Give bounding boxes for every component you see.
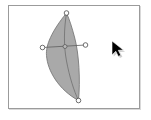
drawing-canvas-surface[interactable] (9, 6, 139, 108)
app-root: Vector Editor Canvas (0, 0, 151, 120)
leaf-petal-shape[interactable] (46, 13, 79, 101)
node-top[interactable] (64, 11, 69, 16)
node-left[interactable] (40, 45, 45, 50)
node-right[interactable] (83, 43, 88, 48)
node-center[interactable] (63, 45, 67, 49)
vector-artboard[interactable] (9, 6, 140, 109)
node-bottom[interactable] (76, 98, 81, 103)
drawing-canvas-frame[interactable] (8, 5, 140, 109)
